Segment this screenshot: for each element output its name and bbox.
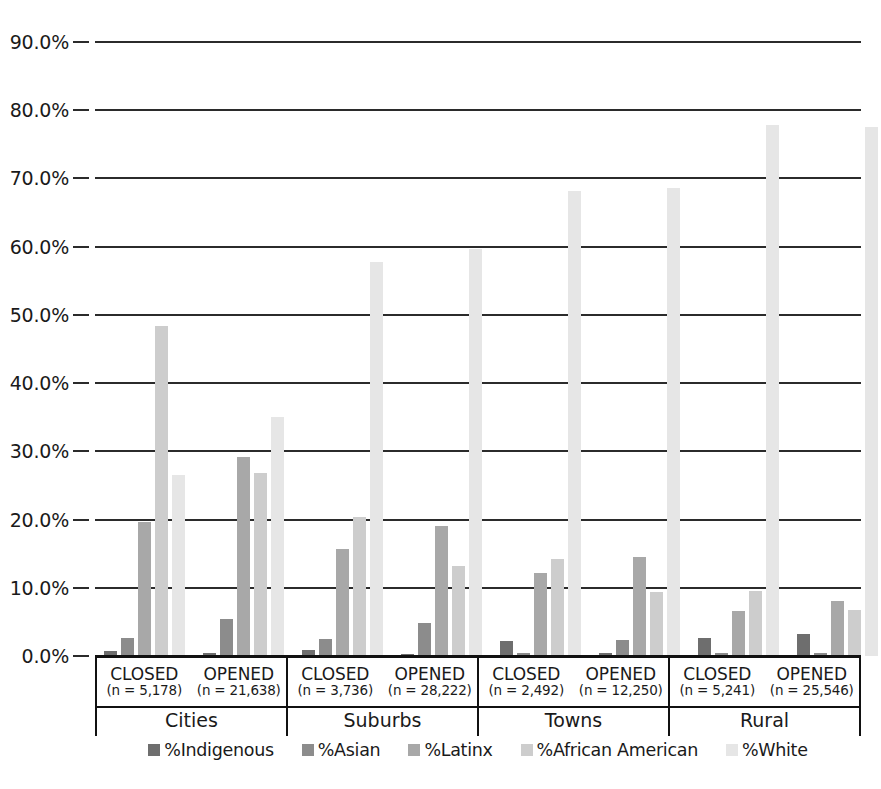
bar — [667, 188, 680, 656]
category-box: CLOSED(n = 5,178)OPENED(n = 21,638) — [97, 658, 286, 708]
category-sample-size: (n = 25,546) — [770, 684, 854, 698]
y-axis-tick-label: 80.0% — [10, 99, 69, 121]
bar — [551, 559, 564, 656]
category-group-label: Cities — [97, 708, 286, 734]
legend-label: %Indigenous — [164, 740, 273, 760]
legend-item[interactable]: %White — [726, 740, 808, 760]
category-state-label: OPENED — [586, 666, 656, 683]
category-sample-size: (n = 21,638) — [197, 684, 281, 698]
bar-group-suburbs — [293, 42, 491, 656]
bar — [749, 591, 762, 656]
legend-item[interactable]: %African American — [521, 740, 698, 760]
bar — [237, 457, 250, 656]
y-axis-tick-mark — [73, 109, 89, 111]
y-axis-tick-label: 50.0% — [10, 304, 69, 326]
bar — [500, 641, 513, 656]
bar — [172, 475, 185, 656]
y-axis-tick-label: 90.0% — [10, 31, 69, 53]
y-axis-tick-mark — [73, 382, 89, 384]
bar — [418, 623, 431, 656]
bar-subgroup-suburbs-closed — [293, 42, 392, 656]
legend-swatch-icon — [521, 744, 533, 756]
category-group-label: Rural — [670, 708, 859, 734]
category-state-label: OPENED — [204, 666, 274, 683]
bar-group-cities — [95, 42, 293, 656]
category-group-cities: CLOSED(n = 5,178)OPENED(n = 21,638)Citie… — [95, 658, 288, 736]
legend-label: %African American — [537, 740, 698, 760]
category-state-label: CLOSED — [492, 666, 560, 683]
bar — [568, 191, 581, 656]
bar — [435, 526, 448, 656]
bar-subgroup-towns-closed — [491, 42, 590, 656]
bar-subgroup-suburbs-opened — [392, 42, 491, 656]
bar — [534, 573, 547, 656]
category-sample-size: (n = 28,222) — [388, 684, 472, 698]
category-group-label: Suburbs — [288, 708, 477, 734]
category-state-label: CLOSED — [683, 666, 751, 683]
category-box: CLOSED(n = 2,492)OPENED(n = 12,250) — [479, 658, 668, 708]
y-axis-tick-label: 10.0% — [10, 577, 69, 599]
category-sample-size: (n = 3,736) — [298, 684, 373, 698]
category-box: CLOSED(n = 5,241)OPENED(n = 25,546) — [670, 658, 859, 708]
legend-label: %White — [742, 740, 808, 760]
category-state-label: CLOSED — [301, 666, 369, 683]
category-sample-size: (n = 5,241) — [680, 684, 755, 698]
legend-swatch-icon — [408, 744, 420, 756]
y-axis-tick-label: 0.0% — [22, 645, 69, 667]
bar — [469, 249, 482, 656]
bar — [138, 522, 151, 656]
legend-item[interactable]: %Latinx — [408, 740, 492, 760]
bar-subgroup-towns-opened — [590, 42, 689, 656]
legend-swatch-icon — [148, 744, 160, 756]
legend-item[interactable]: %Asian — [302, 740, 381, 760]
y-axis-tick-label: 70.0% — [10, 167, 69, 189]
category-sample-size: (n = 5,178) — [107, 684, 182, 698]
category-cell-closed: CLOSED(n = 3,736) — [288, 658, 383, 706]
bar-subgroup-cities-closed — [95, 42, 194, 656]
bar-subgroup-cities-opened — [194, 42, 293, 656]
category-state-label: OPENED — [777, 666, 847, 683]
category-cell-opened: OPENED(n = 28,222) — [383, 658, 478, 706]
bar — [848, 610, 861, 656]
legend-label: %Asian — [318, 740, 381, 760]
bar-subgroup-rural-closed — [689, 42, 788, 656]
bar — [121, 638, 134, 656]
bar — [698, 638, 711, 656]
bar-chart: 0.0%10.0%20.0%30.0%40.0%50.0%60.0%70.0%8… — [0, 0, 881, 789]
y-axis-tick-label: 40.0% — [10, 372, 69, 394]
category-cell-opened: OPENED(n = 12,250) — [574, 658, 669, 706]
bar — [452, 566, 465, 656]
bar — [831, 601, 844, 656]
bar-groups — [95, 42, 861, 656]
bar — [271, 417, 284, 656]
legend-item[interactable]: %Indigenous — [148, 740, 273, 760]
y-axis-tick-label: 30.0% — [10, 440, 69, 462]
category-sample-size: (n = 2,492) — [489, 684, 564, 698]
bar — [155, 326, 168, 656]
category-group-suburbs: CLOSED(n = 3,736)OPENED(n = 28,222)Subur… — [286, 658, 479, 736]
legend-swatch-icon — [302, 744, 314, 756]
y-axis-tick-mark — [73, 450, 89, 452]
category-box: CLOSED(n = 3,736)OPENED(n = 28,222) — [288, 658, 477, 708]
legend-label: %Latinx — [424, 740, 492, 760]
y-axis-tick-mark — [73, 314, 89, 316]
category-cell-opened: OPENED(n = 25,546) — [765, 658, 860, 706]
plot-area — [95, 42, 861, 656]
category-cell-closed: CLOSED(n = 5,241) — [670, 658, 765, 706]
y-axis-tick-mark — [73, 246, 89, 248]
bar — [319, 639, 332, 656]
y-axis: 0.0%10.0%20.0%30.0%40.0%50.0%60.0%70.0%8… — [0, 0, 95, 789]
category-state-label: OPENED — [395, 666, 465, 683]
y-axis-tick-mark — [73, 177, 89, 179]
category-state-label: CLOSED — [110, 666, 178, 683]
category-cell-closed: CLOSED(n = 2,492) — [479, 658, 574, 706]
y-axis-tick-label: 20.0% — [10, 509, 69, 531]
bar — [865, 127, 878, 656]
bar-group-rural — [689, 42, 881, 656]
bar — [650, 592, 663, 656]
bar — [616, 640, 629, 656]
category-axis: CLOSED(n = 5,178)OPENED(n = 21,638)Citie… — [95, 658, 861, 736]
category-group-label: Towns — [479, 708, 668, 734]
bar — [353, 517, 366, 656]
bar — [254, 473, 267, 656]
